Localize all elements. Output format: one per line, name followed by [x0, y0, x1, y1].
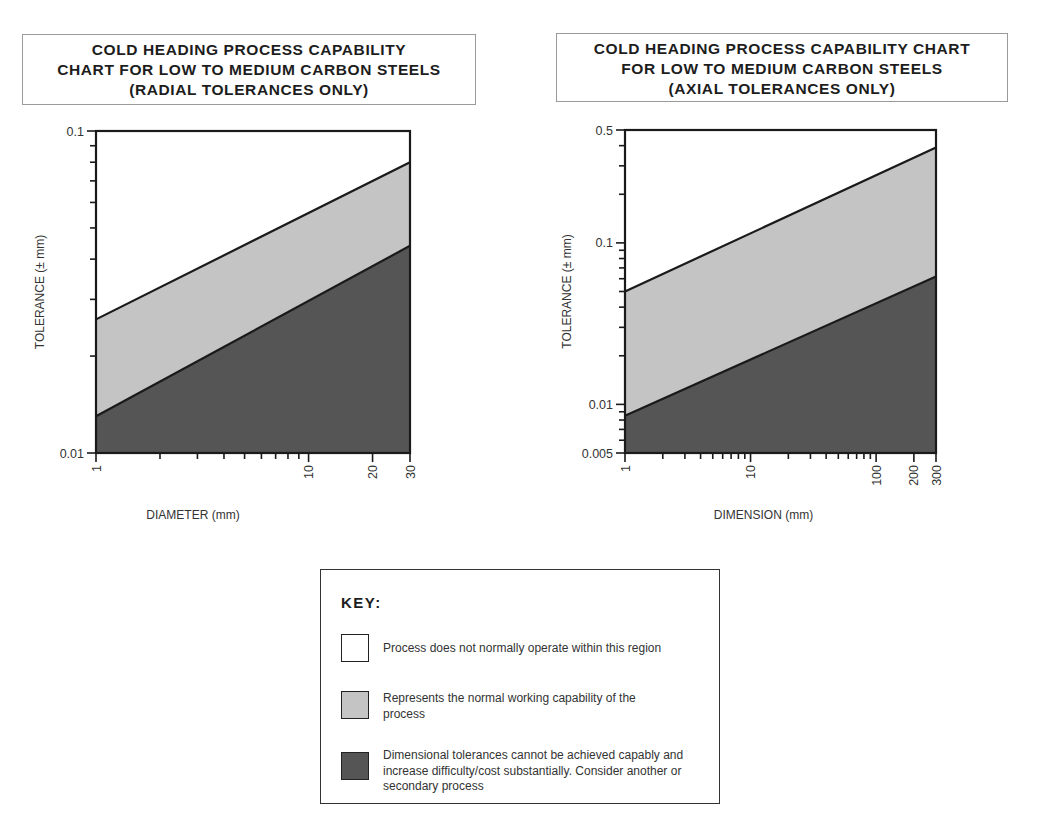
y-tick-label: 0.01: [589, 398, 613, 412]
x-tick-label: 30: [404, 465, 418, 479]
x-tick-label: 10: [744, 465, 758, 479]
x-tick-label: 100: [870, 465, 884, 486]
dark-gray-swatch-icon: [341, 752, 369, 780]
legend-label: Dimensional tolerances cannot be achieve…: [383, 748, 713, 795]
radial-tolerance-chart: 0.10.011102030DIAMETER (mm)TOLERANCE (± …: [33, 125, 418, 523]
y-axis-title: TOLERANCE (± mm): [33, 235, 47, 349]
x-axis-title: DIMENSION (mm): [714, 508, 813, 522]
light-gray-swatch-icon: [341, 691, 369, 719]
axial-tolerance-chart: 0.50.10.010.005110100200300DIMENSION (mm…: [560, 124, 944, 523]
legend-label: Represents the normal working capability…: [383, 691, 663, 722]
legend-title: KEY:: [341, 594, 382, 611]
y-tick-label: 0.5: [596, 124, 613, 138]
white-swatch-icon: [341, 634, 369, 662]
x-tick-label: 300: [930, 465, 944, 486]
legend-item-not-achievable: Dimensional tolerances cannot be achieve…: [341, 748, 713, 795]
x-tick-label: 200: [907, 465, 921, 486]
y-tick-label: 0.01: [60, 447, 84, 461]
x-tick-label: 20: [366, 465, 380, 479]
y-tick-label: 0.1: [67, 125, 84, 139]
legend-label: Process does not normally operate within…: [383, 634, 713, 657]
legend-item-not-operate: Process does not normally operate within…: [341, 634, 713, 662]
y-axis-title: TOLERANCE (± mm): [560, 234, 574, 348]
legend-key: KEY: Process does not normally operate w…: [320, 569, 720, 804]
x-tick-label: 1: [619, 465, 633, 472]
x-tick-label: 10: [302, 465, 316, 479]
y-tick-label: 0.005: [582, 447, 613, 461]
x-tick-label: 1: [90, 465, 104, 472]
legend-item-normal-capability: Represents the normal working capability…: [341, 691, 663, 722]
x-axis-title: DIAMETER (mm): [146, 508, 239, 522]
y-tick-label: 0.1: [596, 236, 613, 250]
